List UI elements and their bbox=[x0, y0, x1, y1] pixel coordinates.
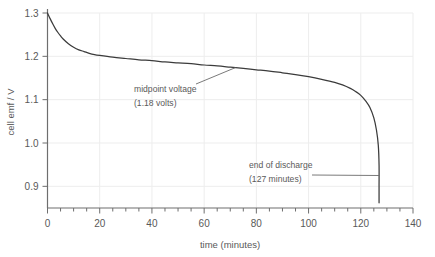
y-tick-label: 1.0 bbox=[25, 138, 39, 149]
y-axis-title: cell emf / V bbox=[5, 88, 16, 136]
x-tick-label: 140 bbox=[405, 218, 422, 229]
chart-container: 0204060801001201400.91.01.11.21.3 midpoi… bbox=[0, 0, 435, 257]
x-tick-label: 60 bbox=[199, 218, 211, 229]
y-tick-label: 0.9 bbox=[25, 181, 39, 192]
x-tick-label: 20 bbox=[94, 218, 106, 229]
annotation-leader-line bbox=[312, 175, 379, 176]
annotation-label-secondary: (127 minutes) bbox=[249, 174, 302, 184]
annotation-label-primary: end of discharge bbox=[249, 160, 313, 170]
annotation-label-secondary: (1.18 volts) bbox=[134, 98, 177, 108]
y-tick-label: 1.3 bbox=[25, 8, 39, 19]
x-tick-label: 100 bbox=[300, 218, 317, 229]
discharge-curve-chart: 0204060801001201400.91.01.11.21.3 midpoi… bbox=[0, 0, 435, 257]
x-axis-title: time (minutes) bbox=[200, 239, 260, 250]
y-tick-label: 1.2 bbox=[25, 51, 39, 62]
x-tick-label: 40 bbox=[146, 218, 158, 229]
annotation-label-primary: midpoint voltage bbox=[134, 84, 197, 94]
x-tick-label: 80 bbox=[251, 218, 263, 229]
x-tick-label: 120 bbox=[352, 218, 369, 229]
chart-background bbox=[0, 0, 435, 257]
x-tick-label: 0 bbox=[45, 218, 51, 229]
y-tick-label: 1.1 bbox=[25, 94, 39, 105]
